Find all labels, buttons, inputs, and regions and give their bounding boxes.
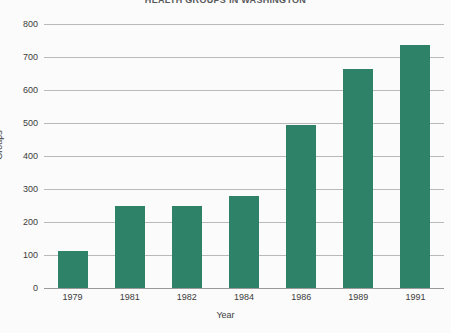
bar-chart: HEALTH GROUPS IN WASHINGTON 010020030040…: [0, 0, 451, 333]
y-tick-label: 200: [4, 217, 38, 227]
gridline: [44, 24, 444, 25]
y-tick-label: 600: [4, 85, 38, 95]
bar-1984: [229, 196, 259, 288]
y-tick-label: 800: [4, 19, 38, 29]
bar-1989: [343, 69, 373, 288]
x-tick-label: 1984: [214, 292, 274, 302]
bar-1981: [115, 206, 145, 289]
bar-1979: [58, 251, 88, 288]
x-tick-label: 1991: [385, 292, 445, 302]
x-axis-title: Year: [0, 310, 451, 320]
x-tick-label: 1982: [157, 292, 217, 302]
gridline: [44, 57, 444, 58]
x-tick-label: 1981: [100, 292, 160, 302]
gridline: [44, 90, 444, 91]
x-axis-tick-labels: 1979198119821984198619891991: [44, 292, 444, 306]
gridline: [44, 189, 444, 190]
plot-area: [44, 24, 444, 288]
y-tick-label: 300: [4, 184, 38, 194]
bar-1986: [286, 125, 316, 288]
y-tick-label: 400: [4, 151, 38, 161]
chart-title: HEALTH GROUPS IN WASHINGTON: [0, 0, 451, 5]
y-tick-label: 100: [4, 250, 38, 260]
y-axis-title: Groups: [0, 130, 4, 160]
gridline: [44, 288, 444, 289]
y-tick-label: 500: [4, 118, 38, 128]
gridline: [44, 156, 444, 157]
bar-1982: [172, 206, 202, 288]
x-tick-label: 1986: [271, 292, 331, 302]
y-tick-label: 700: [4, 52, 38, 62]
bar-1991: [400, 45, 430, 288]
y-tick-label: 0: [4, 283, 38, 293]
gridline: [44, 123, 444, 124]
x-tick-label: 1979: [43, 292, 103, 302]
x-tick-label: 1989: [328, 292, 388, 302]
y-axis-tick-labels: 0100200300400500600700800: [0, 24, 38, 288]
